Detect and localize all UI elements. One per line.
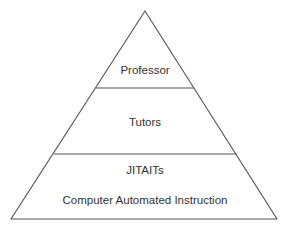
level-label-tutors: Tutors: [129, 117, 161, 129]
level-label-jitaits: JITAITs: [126, 165, 163, 177]
pyramid-outline: [11, 11, 277, 219]
level-label-computer-automated-instruction: Computer Automated Instruction: [63, 195, 228, 207]
level-label-professor: Professor: [120, 65, 169, 77]
